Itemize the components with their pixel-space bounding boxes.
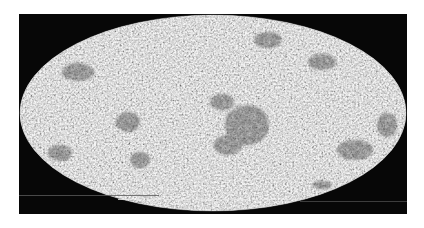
dark-region-center-lower (214, 135, 242, 155)
dark-region-left-mid (116, 112, 140, 132)
dark-region-left-upper (62, 63, 94, 81)
dark-region-center-upper (210, 94, 234, 110)
sky-region (19, 14, 407, 214)
dark-region-left-lower (48, 145, 72, 161)
dark-region-top-right (254, 32, 282, 48)
dark-region-bottom-right (312, 181, 332, 189)
dark-region-mid-lower (130, 152, 150, 168)
dark-region-right-edge (377, 113, 397, 137)
dark-region-right-lower (337, 140, 373, 160)
mollweide-sky-map (0, 0, 424, 228)
dark-region-right-upper (308, 54, 336, 70)
sky-noise-texture (19, 14, 407, 214)
